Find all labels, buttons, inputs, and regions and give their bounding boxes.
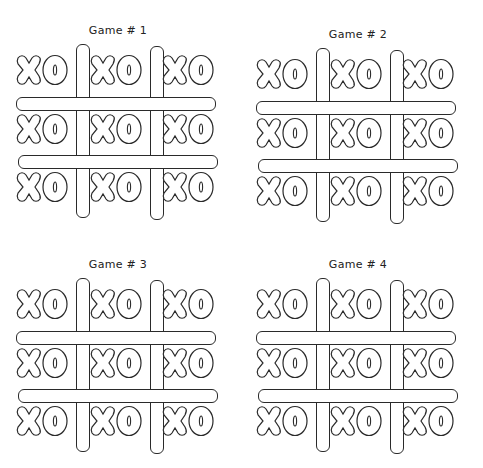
xo-bubble-icon <box>161 405 215 437</box>
xo-bubble-icon <box>89 405 143 437</box>
board-3-cell-2-2[interactable] <box>88 347 144 379</box>
xo-bubble-icon <box>401 288 455 320</box>
xo-bubble-icon <box>15 347 69 379</box>
board-2-cell-2-3[interactable] <box>400 117 456 149</box>
grid-horizontal-bar <box>18 389 218 403</box>
board-3-cell-3-2[interactable] <box>88 405 144 437</box>
grid-horizontal-bar <box>258 159 458 173</box>
board-4-cell-2-1[interactable] <box>254 347 310 379</box>
xo-bubble-icon <box>161 347 215 379</box>
board-2-cell-3-2[interactable] <box>328 175 384 207</box>
board-4-cell-1-1[interactable] <box>254 288 310 320</box>
grid-horizontal-bar <box>256 331 456 345</box>
xo-bubble-icon <box>255 405 309 437</box>
xo-bubble-icon <box>401 347 455 379</box>
xo-bubble-icon <box>255 288 309 320</box>
xo-bubble-icon <box>401 117 455 149</box>
grid-horizontal-bar <box>258 389 458 403</box>
board-4-cell-2-2[interactable] <box>328 347 384 379</box>
board-4-cell-3-1[interactable] <box>254 405 310 437</box>
xo-bubble-icon <box>15 171 69 203</box>
grid-horizontal-bar <box>18 155 218 169</box>
xo-bubble-icon <box>15 113 69 145</box>
xo-bubble-icon <box>161 113 215 145</box>
xo-bubble-icon <box>255 117 309 149</box>
xo-bubble-icon <box>161 288 215 320</box>
xo-bubble-icon <box>89 113 143 145</box>
grid-horizontal-bar <box>16 97 216 111</box>
game-title: Game # 1 <box>8 24 228 37</box>
xo-bubble-icon <box>329 58 383 90</box>
xo-bubble-icon <box>15 405 69 437</box>
board-3-cell-2-1[interactable] <box>14 347 70 379</box>
xo-bubble-icon <box>15 288 69 320</box>
xo-bubble-icon <box>89 347 143 379</box>
grid-horizontal-bar <box>256 101 456 115</box>
board-4-cell-1-3[interactable] <box>400 288 456 320</box>
game-title: Game # 2 <box>248 28 468 41</box>
board-3-cell-1-1[interactable] <box>14 288 70 320</box>
board-3-cell-3-3[interactable] <box>160 405 216 437</box>
xo-bubble-icon <box>89 171 143 203</box>
board-2-cell-2-1[interactable] <box>254 117 310 149</box>
grid-horizontal-bar <box>16 331 216 345</box>
board-1-cell-2-1[interactable] <box>14 113 70 145</box>
game-board-4: Game # 4 <box>248 258 468 458</box>
xo-bubble-icon <box>255 347 309 379</box>
board-2-cell-1-1[interactable] <box>254 58 310 90</box>
xo-bubble-icon <box>329 175 383 207</box>
xo-bubble-icon <box>89 288 143 320</box>
xo-bubble-icon <box>15 54 69 86</box>
game-board-3: Game # 3 <box>8 258 228 458</box>
board-4-cell-3-2[interactable] <box>328 405 384 437</box>
xo-bubble-icon <box>401 405 455 437</box>
board-3-cell-1-2[interactable] <box>88 288 144 320</box>
xo-bubble-icon <box>161 171 215 203</box>
board-2-cell-1-3[interactable] <box>400 58 456 90</box>
board-3-cell-2-3[interactable] <box>160 347 216 379</box>
board-1-cell-1-2[interactable] <box>88 54 144 86</box>
xo-bubble-icon <box>329 117 383 149</box>
board-1-cell-1-3[interactable] <box>160 54 216 86</box>
game-title: Game # 4 <box>248 258 468 271</box>
xo-bubble-icon <box>401 175 455 207</box>
board-4-cell-2-3[interactable] <box>400 347 456 379</box>
xo-bubble-icon <box>255 58 309 90</box>
xo-bubble-icon <box>255 175 309 207</box>
board-4-cell-3-3[interactable] <box>400 405 456 437</box>
board-2-cell-2-2[interactable] <box>328 117 384 149</box>
board-1-cell-3-2[interactable] <box>88 171 144 203</box>
game-title: Game # 3 <box>8 258 228 271</box>
xo-bubble-icon <box>329 405 383 437</box>
board-3-cell-1-3[interactable] <box>160 288 216 320</box>
board-1-cell-1-1[interactable] <box>14 54 70 86</box>
xo-bubble-icon <box>329 288 383 320</box>
board-4-cell-1-2[interactable] <box>328 288 384 320</box>
board-2-cell-1-2[interactable] <box>328 58 384 90</box>
board-3-cell-3-1[interactable] <box>14 405 70 437</box>
board-1-cell-2-3[interactable] <box>160 113 216 145</box>
board-2-cell-3-3[interactable] <box>400 175 456 207</box>
xo-bubble-icon <box>89 54 143 86</box>
game-board-1: Game # 1 <box>8 24 228 224</box>
board-1-cell-3-1[interactable] <box>14 171 70 203</box>
xo-bubble-icon <box>329 347 383 379</box>
board-1-cell-2-2[interactable] <box>88 113 144 145</box>
xo-bubble-icon <box>401 58 455 90</box>
xo-bubble-icon <box>161 54 215 86</box>
game-board-2: Game # 2 <box>248 28 468 228</box>
board-1-cell-3-3[interactable] <box>160 171 216 203</box>
board-2-cell-3-1[interactable] <box>254 175 310 207</box>
